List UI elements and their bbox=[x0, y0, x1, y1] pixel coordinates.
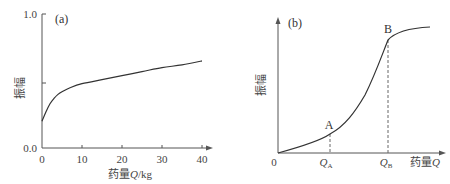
x-tick-label-qb: QB bbox=[380, 156, 393, 170]
origin-label: 0 bbox=[271, 156, 277, 168]
panel-label-b: (b) bbox=[288, 16, 302, 30]
x-tick-label: 0 bbox=[39, 153, 45, 165]
chart-b: (b) A B 0 QA QB 药量Q 振幅 bbox=[254, 16, 446, 170]
curve-b bbox=[278, 27, 430, 153]
point-label-a: A bbox=[325, 118, 334, 132]
x-axis-label-b: 药量Q bbox=[410, 156, 440, 169]
x-axis-label-a: 药量Q/kg bbox=[108, 168, 153, 181]
x-tick-label: 40 bbox=[197, 153, 209, 165]
x-tick-label: 10 bbox=[77, 153, 89, 165]
x-tick-label: 30 bbox=[157, 153, 169, 165]
x-tick-label-qa: QA bbox=[319, 156, 332, 170]
x-axis-arrow-icon bbox=[206, 146, 213, 151]
x-tick-label: 20 bbox=[117, 153, 129, 165]
chart-a: 1.0 0.0 0 10 20 30 40 (a) 振幅 药量Q/kg bbox=[13, 8, 213, 181]
figure: 1.0 0.0 0 10 20 30 40 (a) 振幅 药量Q/kg (b) … bbox=[0, 0, 450, 184]
y-axis-label-b: 振幅 bbox=[254, 74, 268, 96]
curve-a bbox=[42, 61, 202, 121]
y-axis-arrow-icon bbox=[276, 17, 281, 24]
panel-label-a: (a) bbox=[55, 12, 68, 26]
x-axis-arrow-icon bbox=[439, 151, 446, 156]
y-axis-label-a: 振幅 bbox=[13, 77, 27, 99]
y-tick-label: 1.0 bbox=[23, 8, 37, 20]
point-label-b: B bbox=[384, 22, 392, 36]
y-tick-label: 0.0 bbox=[23, 142, 37, 154]
